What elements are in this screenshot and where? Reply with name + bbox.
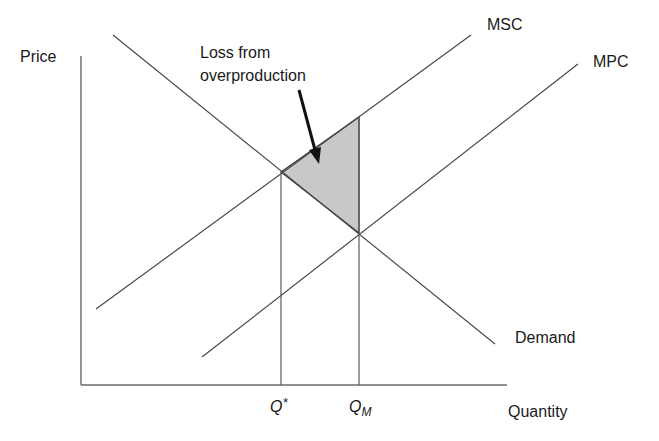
x-axis-label: Quantity xyxy=(508,403,568,420)
deadweight-loss-triangle xyxy=(281,117,359,233)
externality-diagram: Price Quantity MSC MPC Demand Loss from … xyxy=(0,0,659,441)
annotation-arrow xyxy=(299,90,315,150)
demand-label: Demand xyxy=(515,329,575,346)
y-axis-label: Price xyxy=(20,48,57,65)
mpc-label: MPC xyxy=(593,53,629,70)
annotation-line-1: Loss from xyxy=(200,44,270,61)
mpc-curve xyxy=(202,64,578,357)
q-m-label: QM xyxy=(349,398,371,419)
annotation-line-2: overproduction xyxy=(200,67,306,84)
msc-label: MSC xyxy=(487,16,523,33)
q-star-label: Q* xyxy=(270,395,288,415)
